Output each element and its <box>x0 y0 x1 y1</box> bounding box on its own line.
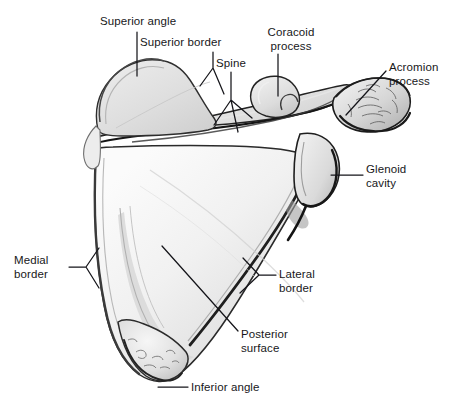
label-acromion-process-line1: Acromion <box>389 61 453 75</box>
label-posterior-surface-line1: Posterior <box>241 328 305 342</box>
label-glenoid-cavity-line2: cavity <box>366 177 436 191</box>
label-inferior-angle: Inferior angle <box>191 381 260 395</box>
label-acromion-process-line2: process <box>389 75 453 89</box>
label-coracoid-process: Coracoid process <box>258 26 324 53</box>
label-superior-angle: Superior angle <box>100 15 176 29</box>
label-coracoid-process-line1: Coracoid <box>258 26 324 40</box>
leader-medial-border <box>69 248 99 288</box>
label-posterior-surface-line2: surface <box>241 342 305 356</box>
supraspinous-fossa <box>97 60 217 136</box>
label-glenoid-cavity-line1: Glenoid <box>366 163 436 177</box>
label-glenoid-cavity: Glenoid cavity <box>366 163 436 190</box>
label-medial-border-line2: border <box>14 268 72 282</box>
label-lateral-border-line1: Lateral <box>279 268 337 282</box>
label-spine: Spine <box>216 57 246 71</box>
label-acromion-process: Acromion process <box>389 61 453 88</box>
superior-medial-neck <box>84 126 101 169</box>
label-medial-border-line1: Medial <box>14 254 72 268</box>
label-lateral-border-line2: border <box>279 282 337 296</box>
label-superior-border: Superior border <box>140 36 221 50</box>
label-lateral-border: Lateral border <box>279 268 337 295</box>
label-medial-border: Medial border <box>14 254 72 281</box>
label-posterior-surface: Posterior surface <box>241 328 305 355</box>
label-coracoid-process-line2: process <box>258 40 324 54</box>
anatomy-figure: Superior angle Superior border Spine Cor… <box>0 0 454 412</box>
